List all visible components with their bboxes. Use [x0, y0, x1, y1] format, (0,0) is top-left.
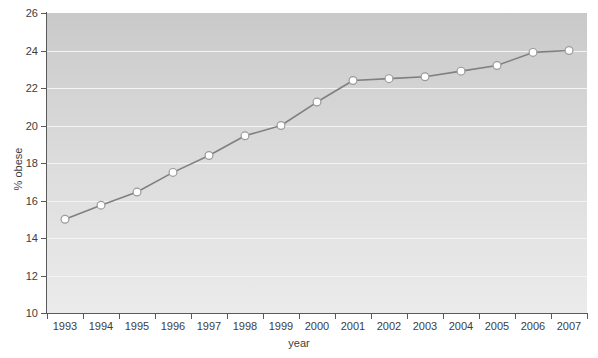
x-axis-tick-label: 2003: [405, 320, 445, 332]
y-axis-tick: [41, 163, 46, 164]
x-axis-tick: [479, 314, 480, 319]
line-series: [47, 13, 587, 313]
data-point: [493, 62, 501, 70]
data-point: [385, 75, 393, 83]
x-axis-tick-label: 2000: [297, 320, 337, 332]
x-axis-title: year: [0, 337, 598, 349]
x-axis-tick-label: 2006: [513, 320, 553, 332]
x-axis-tick: [371, 314, 372, 319]
y-axis-tick: [41, 238, 46, 239]
x-axis-tick-label: 1994: [81, 320, 121, 332]
data-point: [421, 73, 429, 81]
data-point: [241, 132, 249, 140]
x-axis-tick-label: 1995: [117, 320, 157, 332]
x-axis-tick: [407, 314, 408, 319]
x-axis-tick: [443, 314, 444, 319]
x-axis-tick: [515, 314, 516, 319]
x-axis-tick: [335, 314, 336, 319]
y-axis-tick: [41, 276, 46, 277]
x-axis-tick: [299, 314, 300, 319]
data-point: [349, 77, 357, 85]
data-point: [133, 188, 141, 196]
x-axis-tick-label: 2002: [369, 320, 409, 332]
x-axis-tick-label: 1998: [225, 320, 265, 332]
x-axis-tick: [119, 314, 120, 319]
data-point: [277, 122, 285, 130]
x-axis-tick-label: 2007: [549, 320, 589, 332]
x-axis-tick-label: 2004: [441, 320, 481, 332]
x-axis-tick-label: 1993: [45, 320, 85, 332]
x-axis-tick: [83, 314, 84, 319]
data-point: [169, 168, 177, 176]
x-axis-tick: [227, 314, 228, 319]
y-axis-tick: [41, 126, 46, 127]
chart-figure: 101214161820222426 199319941995199619971…: [0, 0, 598, 358]
y-axis-tick: [41, 201, 46, 202]
x-axis-line: [46, 313, 588, 314]
plot-area: [47, 13, 587, 313]
x-axis-tick-label: 1997: [189, 320, 229, 332]
x-axis-tick: [191, 314, 192, 319]
data-point: [205, 152, 213, 160]
data-point: [97, 201, 105, 209]
data-point: [313, 98, 321, 106]
y-axis-line: [46, 12, 47, 314]
x-axis-tick: [587, 314, 588, 319]
x-axis-tick-label: 2005: [477, 320, 517, 332]
x-axis-tick-label: 1996: [153, 320, 193, 332]
data-point: [457, 67, 465, 75]
y-axis-tick: [41, 313, 46, 314]
x-axis-tick: [263, 314, 264, 319]
x-axis-tick-label: 2001: [333, 320, 373, 332]
data-point: [565, 47, 573, 55]
y-axis-tick: [41, 13, 46, 14]
x-axis-tick: [551, 314, 552, 319]
series-markers: [61, 47, 573, 224]
x-axis-tick-label: 1999: [261, 320, 301, 332]
x-axis-tick: [47, 314, 48, 319]
y-axis-title: % obese: [12, 129, 24, 209]
x-axis-tick: [155, 314, 156, 319]
data-point: [61, 215, 69, 223]
data-point: [529, 48, 537, 56]
y-axis-tick: [41, 51, 46, 52]
y-axis-tick: [41, 88, 46, 89]
